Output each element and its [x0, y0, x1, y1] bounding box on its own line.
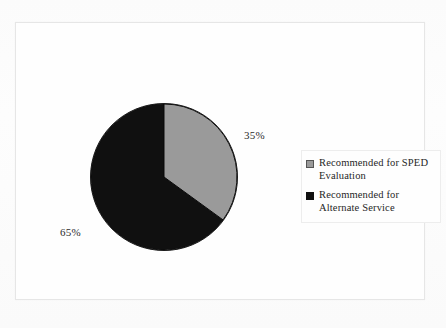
pie-svg [90, 103, 238, 251]
pie-label-alternate-service: 65% [60, 226, 81, 238]
legend-swatch-gray-icon [306, 160, 314, 168]
chart-legend: Recommended for SPED Evaluation Recommen… [301, 150, 441, 223]
legend-item-sped-evaluation: Recommended for SPED Evaluation [306, 157, 436, 182]
legend-label-line1: Recommended for SPED [319, 157, 428, 168]
pie-label-sped-evaluation: 35% [244, 129, 265, 141]
legend-item-alternate-service: Recommended for Alternate Service [306, 189, 436, 214]
chart-frame: 35% 65% Recommended for SPED Evaluation … [15, 22, 425, 300]
legend-label-line2: Alternate Service [319, 202, 395, 213]
legend-swatch-black-icon [306, 192, 314, 200]
legend-label-sped-evaluation: Recommended for SPED Evaluation [319, 157, 428, 182]
pie-chart [90, 103, 238, 251]
legend-label-line2: Evaluation [319, 170, 366, 181]
chart-page: 35% 65% Recommended for SPED Evaluation … [0, 0, 446, 328]
legend-label-line1: Recommended for [319, 189, 399, 200]
legend-label-alternate-service: Recommended for Alternate Service [319, 189, 399, 214]
